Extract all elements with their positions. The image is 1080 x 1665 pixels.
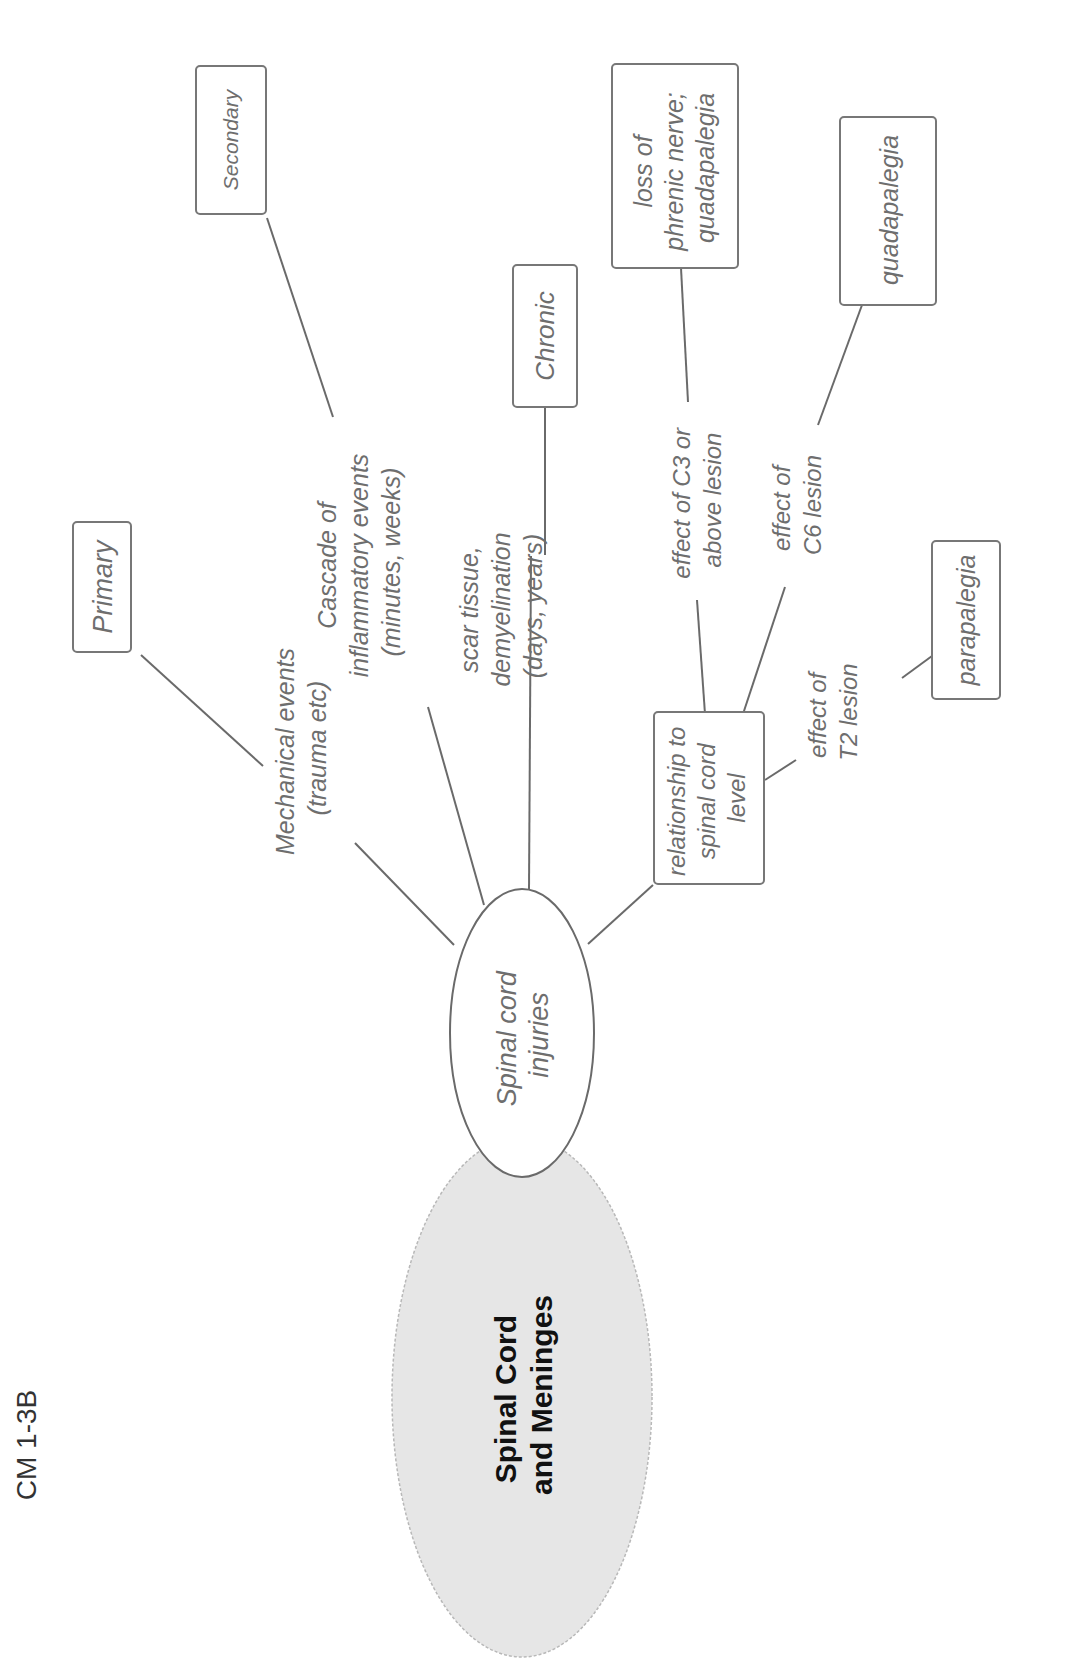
edge-cascade-secondary (267, 218, 333, 417)
node-c6-result[interactable]: quadapalegia (840, 117, 936, 305)
node-chronic[interactable]: Chronic (513, 265, 577, 407)
edge-relationship-t2 (765, 760, 796, 780)
node-relationship-to-spinal-cord-level[interactable]: relationship to spinal cord level (654, 712, 764, 884)
edge-hub-mechanical (355, 843, 454, 945)
edge-relationship-c6 (743, 587, 785, 714)
t2-result-label: parapalegia (952, 555, 980, 687)
relationship-line1: relationship to (663, 727, 690, 876)
edge-c6-result (818, 305, 862, 425)
label-effect-c3: effect of C3 or above lesion (668, 421, 726, 578)
c6-result-label: quadapalegia (875, 135, 903, 285)
root-label-line2: and Meninges (525, 1295, 558, 1495)
primary-label: Primary (88, 539, 118, 633)
hub-label-line2: injuries (524, 992, 554, 1078)
edge-mechanical-primary (141, 655, 263, 766)
relationship-line2: spinal cord (693, 743, 720, 860)
c3-result-line3: quadapalegia (691, 93, 719, 243)
edge-relationship-c3 (697, 600, 705, 714)
edge-t2-result (902, 656, 932, 678)
root-node[interactable]: Spinal Cord and Meninges (392, 1137, 652, 1657)
node-c3-result[interactable]: loss of phrenic nerve; quadapalegia (612, 64, 738, 268)
node-secondary[interactable]: Secondary (196, 66, 266, 214)
edge-hub-cascade (428, 707, 484, 905)
label-effect-c6: effect of C6 lesion (768, 455, 826, 555)
root-label-line1: Spinal Cord (489, 1315, 522, 1483)
hub-label-line1: Spinal cord (492, 970, 522, 1106)
label-scar-tissue: scar tissue, demyelination (days, years) (455, 525, 547, 686)
node-primary[interactable]: Primary (73, 522, 131, 652)
edge-c3-result (681, 268, 688, 402)
label-mechanical-events: Mechanical events (trauma etc) (271, 641, 331, 855)
hub-node-spinal-cord-injuries[interactable]: Spinal cord injuries (450, 889, 594, 1177)
label-cascade-inflammatory: Cascade of inflammatory events (minutes,… (313, 447, 405, 678)
secondary-label: Secondary (219, 88, 242, 190)
label-effect-t2: effect of T2 lesion (804, 663, 862, 760)
c3-result-line1: loss of (629, 132, 657, 207)
mind-map-canvas: CM 1-3B Spinal Cord and Meninges Spinal … (0, 0, 1080, 1665)
relationship-line3: level (723, 773, 750, 823)
c3-result-line2: phrenic nerve; (660, 92, 688, 251)
edge-hub-relationship (588, 885, 653, 944)
chronic-label: Chronic (530, 291, 560, 381)
page-code: CM 1-3B (11, 1390, 42, 1500)
node-t2-result[interactable]: parapalegia (932, 541, 1000, 699)
